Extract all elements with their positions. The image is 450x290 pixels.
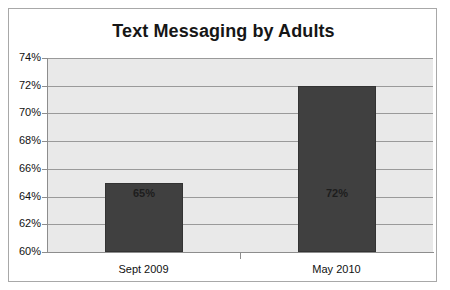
bar-value-label: 72% [299,187,375,199]
y-axis-tick-label: 68% [7,135,41,146]
y-axis-tick-label: 74% [7,52,41,63]
chart-frame: Text Messaging by Adults 74%72%70%68%66%… [8,8,437,282]
bar[interactable]: 72% [298,86,376,252]
y-axis-tick-label: 60% [7,246,41,257]
y-axis-line [47,58,48,253]
bar[interactable]: 65% [105,183,183,252]
x-axis-tick [240,253,241,259]
y-axis-tick [42,58,47,59]
gridline [47,58,433,59]
y-axis-tick-label: 66% [7,163,41,174]
x-axis-category-label: May 2010 [240,263,433,275]
y-axis-tick-label: 64% [7,191,41,202]
y-axis-tick [42,197,47,198]
y-axis-tick-label: 62% [7,218,41,229]
x-axis-category-label: Sept 2009 [47,263,240,275]
chart-title: Text Messaging by Adults [9,21,438,42]
y-axis-tick [42,86,47,87]
y-axis-tick [42,169,47,170]
y-axis-tick-label: 72% [7,80,41,91]
y-axis-tick [42,141,47,142]
y-axis-tick [42,113,47,114]
bar-value-label: 65% [106,187,182,199]
y-axis-tick [42,252,47,253]
y-axis-tick [42,224,47,225]
y-axis-tick-label: 70% [7,107,41,118]
